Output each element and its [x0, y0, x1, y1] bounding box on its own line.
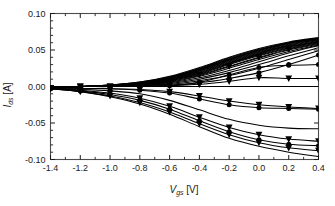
- y-axis-label-wrapper: Ids [A]: [2, 62, 18, 128]
- x-tick-label: 0.0: [253, 163, 266, 173]
- marker-circle: [167, 91, 172, 96]
- y-tick-label: 0.00: [28, 82, 46, 92]
- curve-layer: [51, 38, 319, 157]
- marker-layer: [47, 41, 322, 155]
- x-axis-label: Vgs [V]: [50, 184, 318, 196]
- x-tick-label: 0.2: [282, 163, 295, 173]
- marker-triangle-down: [196, 121, 203, 127]
- x-tick-label: -0.4: [192, 163, 208, 173]
- iv-characteristic-chart: -1.4-1.2-1.0-0.8-0.6-0.4-0.20.00.20.40.1…: [0, 0, 335, 206]
- y-axis-label: Ids [A]: [2, 62, 18, 128]
- x-tick-label: -1.2: [73, 163, 89, 173]
- marker-circle: [286, 63, 291, 68]
- x-tick-label: -0.6: [162, 163, 178, 173]
- curve-lower-06: [51, 89, 319, 151]
- marker-circle: [256, 105, 261, 110]
- marker-triangle-down: [315, 148, 322, 154]
- marker-circle: [197, 96, 202, 101]
- marker-circle: [256, 70, 261, 75]
- y-axis-symbol: I: [2, 105, 13, 108]
- marker-circle: [316, 53, 321, 58]
- curve-lower-05: [51, 89, 319, 146]
- x-axis-unit: [V]: [186, 184, 198, 195]
- x-tick-label: -1.0: [102, 163, 118, 173]
- x-tick-label: -0.8: [132, 163, 148, 173]
- figure-container: -1.4-1.2-1.0-0.8-0.6-0.4-0.20.00.20.40.1…: [0, 0, 335, 206]
- y-tick-label: -0.05: [25, 118, 46, 128]
- x-tick-label: -0.2: [221, 163, 237, 173]
- y-axis-unit: [A]: [2, 82, 13, 94]
- curve-lower-03: [51, 89, 319, 129]
- marker-circle: [137, 88, 142, 93]
- marker-circle: [256, 65, 261, 70]
- y-axis-subscript: ds: [7, 97, 14, 104]
- marker-circle: [316, 62, 321, 67]
- marker-circle: [197, 80, 202, 85]
- marker-circle: [286, 106, 291, 111]
- marker-circle: [167, 83, 172, 88]
- marker-circle: [227, 72, 232, 77]
- y-tick-label: 0.05: [28, 45, 46, 55]
- marker-circle: [316, 143, 321, 148]
- marker-circle: [316, 107, 321, 112]
- x-axis-subscript: gs: [176, 189, 183, 196]
- marker-circle: [227, 102, 232, 107]
- y-tick-label: 0.10: [28, 9, 46, 19]
- y-tick-label: -0.10: [25, 155, 46, 165]
- x-tick-label: 0.4: [312, 163, 325, 173]
